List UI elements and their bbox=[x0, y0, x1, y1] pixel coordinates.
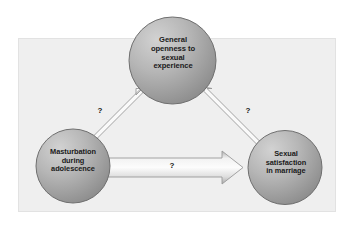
diagram-graphics bbox=[0, 0, 353, 235]
node-sexual-satisfaction bbox=[248, 131, 322, 205]
arrow-masturbation-to-satisfaction bbox=[100, 151, 243, 184]
diagram-figure: General openness to sexual experience Ma… bbox=[0, 0, 353, 235]
node-masturbation-adolescence bbox=[36, 129, 110, 203]
node-general-openness bbox=[129, 17, 216, 104]
